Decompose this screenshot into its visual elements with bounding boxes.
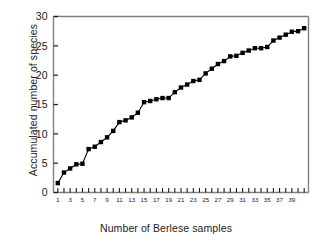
y-tick-label: 0 <box>42 186 48 198</box>
x-tick-label: 23 <box>190 196 197 203</box>
data-point-marker <box>216 62 220 66</box>
x-tick-label: 27 <box>215 196 222 203</box>
data-point-marker <box>160 96 164 100</box>
x-tick-label: 17 <box>153 196 160 203</box>
data-point-marker <box>185 82 189 86</box>
data-point-marker <box>173 90 177 94</box>
data-point-marker <box>284 32 288 36</box>
x-tick-label: 21 <box>178 196 185 203</box>
series-line <box>58 28 304 183</box>
data-point-marker <box>86 147 90 151</box>
data-point-marker <box>142 100 146 104</box>
data-point-marker <box>93 145 97 149</box>
data-point-marker <box>117 120 121 124</box>
data-point-marker <box>136 111 140 115</box>
data-point-marker <box>259 46 263 50</box>
data-point-marker <box>277 35 281 39</box>
x-tick-label: 31 <box>239 196 246 203</box>
y-tick-label: 15 <box>36 98 48 110</box>
x-tick-label: 37 <box>276 196 283 203</box>
x-tick-label: 15 <box>141 196 148 203</box>
data-point-marker <box>68 166 72 170</box>
data-point-marker <box>179 85 183 89</box>
x-tick-label: 29 <box>227 196 234 203</box>
axes <box>54 17 309 193</box>
data-point-marker <box>203 71 207 75</box>
data-point-marker <box>123 118 127 122</box>
data-point-marker <box>302 26 306 30</box>
x-tick-label: 33 <box>251 196 258 203</box>
data-point-marker <box>210 67 214 71</box>
x-tick-label: 9 <box>105 196 109 203</box>
data-point-marker <box>247 48 251 52</box>
data-point-marker <box>191 79 195 83</box>
data-point-marker <box>148 99 152 103</box>
data-point-marker <box>290 30 294 34</box>
x-tick-label: 25 <box>202 196 209 203</box>
y-tick-label: 20 <box>36 69 48 81</box>
data-point-marker <box>228 54 232 58</box>
data-point-marker <box>74 162 78 166</box>
y-tick-label: 30 <box>36 10 48 22</box>
data-point-marker <box>296 29 300 33</box>
data-point-marker <box>265 45 269 49</box>
data-point-marker <box>130 115 134 119</box>
data-point-marker <box>222 59 226 63</box>
plot-area: 051015202530 135791113151719212325272931… <box>0 0 332 246</box>
x-tick-label: 13 <box>128 196 135 203</box>
y-tick-label: 5 <box>42 157 48 169</box>
data-point-marker <box>271 38 275 42</box>
data-point-marker <box>111 129 115 133</box>
data-point-marker <box>99 140 103 144</box>
x-tick-label: 19 <box>165 196 172 203</box>
data-point-marker <box>80 162 84 166</box>
data-point-marker <box>234 54 238 58</box>
x-tick-label: 1 <box>56 196 60 203</box>
data-series <box>56 26 307 185</box>
data-point-marker <box>56 181 60 185</box>
x-tick-label: 3 <box>68 196 72 203</box>
data-point-marker <box>197 78 201 82</box>
x-tick-label: 11 <box>116 196 123 203</box>
x-tick-label: 5 <box>81 196 85 203</box>
y-tick-label: 10 <box>36 128 48 140</box>
data-point-marker <box>240 51 244 55</box>
data-point-marker <box>62 170 66 174</box>
data-point-marker <box>105 135 109 139</box>
y-axis-ticks: 051015202530 <box>36 10 58 198</box>
data-point-marker <box>166 96 170 100</box>
x-axis-ticks: 13579111315171921232527293133353739 <box>56 188 304 203</box>
x-tick-label: 7 <box>93 196 97 203</box>
data-point-marker <box>253 46 257 50</box>
data-point-marker <box>154 97 158 101</box>
y-tick-label: 25 <box>36 40 48 52</box>
species-accumulation-chart: Accumulated number of species Number of … <box>0 0 332 246</box>
x-tick-label: 39 <box>288 196 295 203</box>
x-tick-label: 35 <box>264 196 271 203</box>
